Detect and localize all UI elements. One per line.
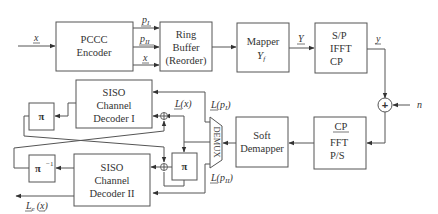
svg-text:Demapper: Demapper bbox=[240, 143, 284, 154]
svg-text:DEMUX: DEMUX bbox=[212, 126, 222, 157]
svg-text:Decoder I: Decoder I bbox=[93, 113, 135, 124]
ifft-to-adder-arrow bbox=[367, 49, 385, 98]
ifft-block: S/P IFFT CP bbox=[315, 23, 367, 73]
svg-text:(Reorder): (Reorder) bbox=[166, 55, 207, 67]
svg-text:CP: CP bbox=[330, 56, 343, 67]
svg-text:Encoder: Encoder bbox=[77, 47, 112, 58]
sum-node-2 bbox=[161, 164, 168, 171]
label-p1: pI bbox=[141, 14, 151, 27]
svg-text:x: x bbox=[142, 52, 148, 63]
svg-text:PCCC: PCCC bbox=[81, 34, 108, 45]
pccc-encoder-block: PCCC Encoder bbox=[56, 22, 133, 71]
svg-text:Decoder II: Decoder II bbox=[89, 188, 135, 199]
svg-text:SISO: SISO bbox=[103, 87, 126, 98]
svg-text:IFFT: IFFT bbox=[330, 43, 352, 54]
svg-text:Channel: Channel bbox=[95, 175, 130, 186]
label-Lp1: L(pI) bbox=[210, 99, 231, 112]
interleaver-mid-block: π bbox=[172, 153, 197, 180]
svg-text:−1: −1 bbox=[46, 160, 54, 168]
decoder1-to-interleaver-arrow bbox=[55, 103, 76, 116]
svg-text:SISO: SISO bbox=[101, 162, 124, 173]
svg-text:Channel: Channel bbox=[97, 100, 132, 111]
svg-text:Mapper: Mapper bbox=[247, 36, 280, 47]
label-p2: pII bbox=[139, 33, 154, 46]
Lx-to-adder1-arrow bbox=[165, 116, 184, 142]
svg-text:π: π bbox=[35, 163, 41, 174]
svg-text:Buffer: Buffer bbox=[172, 42, 200, 53]
label-Lp2: L(pII) bbox=[210, 172, 234, 185]
siso-decoder-1-block: SISO Channel Decoder I bbox=[76, 80, 152, 128]
deinterleaver-block: π −1 bbox=[29, 155, 55, 182]
label-input-x: x bbox=[33, 32, 39, 43]
svg-text:P/S: P/S bbox=[330, 150, 345, 161]
sum-node-1 bbox=[161, 113, 168, 120]
svg-text:y: y bbox=[375, 33, 381, 44]
label-output-Le: Le(x) bbox=[25, 200, 48, 213]
fft-block: CP FFT P/S bbox=[314, 117, 366, 169]
svg-text:+: + bbox=[382, 99, 388, 111]
svg-text:π: π bbox=[182, 161, 188, 172]
label-Y: Y bbox=[297, 33, 305, 44]
svg-text:π: π bbox=[39, 111, 45, 122]
adder-node: + bbox=[378, 98, 392, 112]
siso-decoder-2-block: SISO Channel Decoder II bbox=[74, 154, 150, 206]
label-Lx: L(x) bbox=[174, 98, 192, 110]
mapper-block: Mapper Yf bbox=[237, 23, 289, 72]
label-y: y bbox=[375, 33, 381, 44]
demux-block: DEMUX bbox=[210, 117, 222, 168]
interleaver-top-block: π bbox=[29, 103, 54, 130]
label-sys-x: x bbox=[142, 52, 149, 63]
svg-text:S/P: S/P bbox=[332, 30, 347, 41]
svg-text:L(x): L(x) bbox=[174, 98, 192, 110]
svg-text:pI: pI bbox=[141, 14, 150, 27]
svg-text:Y: Y bbox=[298, 33, 305, 44]
adder-to-fft-arrow bbox=[367, 112, 385, 143]
svg-text:CP: CP bbox=[335, 121, 348, 132]
label-noise: n bbox=[417, 99, 422, 110]
ring-buffer-block: Ring Buffer (Reorder) bbox=[160, 22, 212, 71]
svg-text:Soft: Soft bbox=[253, 130, 271, 141]
svg-text:FFT: FFT bbox=[330, 137, 349, 148]
soft-demapper-block: Soft Demapper bbox=[236, 117, 288, 167]
svg-text:pII: pII bbox=[139, 33, 150, 46]
block-diagram: x PCCC Encoder pI pII x Ring Buffer (Reo… bbox=[0, 0, 438, 214]
svg-text:Ring: Ring bbox=[176, 29, 197, 40]
